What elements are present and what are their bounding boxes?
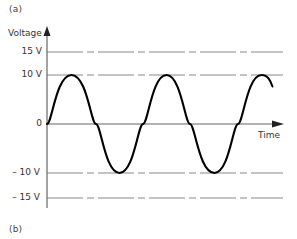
y-tick-label-0: 0 <box>0 118 42 128</box>
y-axis-title: Voltage <box>8 28 42 38</box>
x-axis-title: Time <box>258 130 280 140</box>
y-tick-label-10v: 10 V <box>0 69 42 79</box>
panel-label-b: (b) <box>9 224 22 234</box>
y-axis-arrow-icon <box>44 26 51 36</box>
y-tick-label-minus-10v: – 10 V <box>0 167 40 177</box>
y-tick-label-minus-15v: – 15 V <box>0 192 40 202</box>
y-tick-label-15v: 15 V <box>0 46 42 56</box>
figure-container: (a) Voltage Time 15 V 10 V 0 – 10 V – 15… <box>0 0 297 239</box>
waveform-plot <box>0 0 297 239</box>
x-axis-arrow-icon <box>272 121 284 128</box>
